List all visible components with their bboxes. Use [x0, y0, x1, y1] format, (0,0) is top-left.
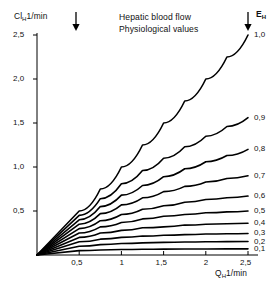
curve-0-1 [37, 249, 248, 255]
chart-figure: Hepatic blood flow Physiological values … [0, 0, 279, 292]
curve-group [37, 35, 248, 255]
curve-label-0-9: 0,9 [254, 113, 265, 122]
arrow-extraction-axis-icon [244, 12, 251, 31]
chart-plot-area [0, 0, 279, 292]
x-tick-label: 2,5 [240, 258, 251, 267]
x-axis-ticks [79, 251, 248, 255]
y-tick-label: 1,0 [13, 162, 24, 171]
x-axis-label-sub: H [222, 273, 226, 279]
x-tick-label: 2 [204, 258, 209, 267]
curve-label-0-5: 0,5 [254, 206, 265, 215]
x-tick-label: 0,5 [71, 258, 82, 267]
x-axis-label-unit: 1/min [226, 268, 247, 278]
legend-title-sub: H [262, 14, 266, 20]
curve-label-0-1: 0,1 [254, 244, 265, 253]
curve-label-0-4: 0,4 [254, 218, 265, 227]
x-axis-label: QH1/min [215, 268, 247, 278]
y-axis-label: ClH1/min [14, 11, 48, 21]
y-axis-ticks [33, 35, 37, 211]
curve-1-0 [37, 35, 248, 255]
curve-label-0-6: 0,6 [254, 191, 265, 200]
x-tick-label: 1 [119, 258, 124, 267]
y-axis-label-sub: H [22, 16, 26, 22]
x-axis-label-main: Q [215, 268, 222, 278]
y-axis-label-unit: 1/min [27, 11, 48, 21]
curve-label-0-8: 0,8 [254, 144, 265, 153]
legend-title: EH [256, 9, 266, 19]
x-tick-label: 1,5 [156, 258, 167, 267]
y-axis-label-main: Cl [14, 11, 22, 21]
legend-title-main: E [256, 9, 262, 19]
y-tick-label: 2,0 [13, 74, 24, 83]
curve-label-0-7: 0,7 [254, 171, 265, 180]
y-tick-label: 0,5 [13, 206, 24, 215]
chart-title: Hepatic blood flow [119, 12, 191, 22]
chart-subtitle: Physiological values [119, 24, 198, 34]
y-tick-label: 2,5 [13, 30, 24, 39]
y-tick-label: 1,5 [13, 118, 24, 127]
arrow-physiological-flow-icon [72, 12, 79, 31]
curve-label-1-0: 1,0 [254, 30, 265, 39]
